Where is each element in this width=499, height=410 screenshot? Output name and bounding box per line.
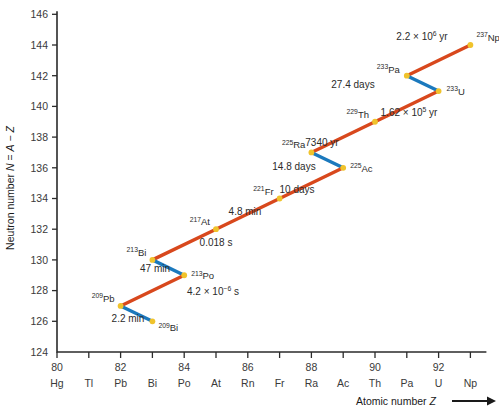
x-axis-title: Atomic number Z xyxy=(356,395,437,407)
element-symbol-pb: Pb xyxy=(114,377,127,389)
nuclide-element-symbol: Ac xyxy=(362,163,373,174)
y-axis-title-a: A xyxy=(4,145,16,153)
nuclide-mass-number: 213 xyxy=(191,270,203,277)
x-axis-tick-label: 86 xyxy=(242,361,254,373)
x-axis-tick-label: 92 xyxy=(433,361,445,373)
half-life-label-at217-bi213: 0.018 s xyxy=(200,237,233,248)
nuclide-node-ac225 xyxy=(340,165,346,171)
nuclide-element-symbol: Np xyxy=(488,32,499,43)
nuclide-label-po213: 213Po xyxy=(191,270,214,282)
y-axis-tick-label: 128 xyxy=(30,284,48,296)
nuclide-mass-number: 213 xyxy=(127,246,139,253)
nuclide-mass-number: 221 xyxy=(253,185,265,192)
y-axis-title: Neutron number N = A − Z xyxy=(4,126,16,250)
half-life-unit: s xyxy=(231,286,239,297)
nuclide-label-pa233: 233Pa xyxy=(377,63,401,75)
element-symbol-u: U xyxy=(435,377,443,389)
nuclide-node-np237 xyxy=(468,42,474,48)
half-life-label-ac225-fr221: 10 days xyxy=(279,184,314,195)
half-life-label-u233-th229: 1.62 × 105 yr xyxy=(381,106,439,118)
half-life-label-fr221-at217: 4.8 min xyxy=(229,206,262,217)
nuclide-node-th229 xyxy=(372,119,378,125)
nuclide-label-u233: 233U xyxy=(447,85,465,97)
nuclide-node-bi209 xyxy=(150,318,156,324)
nuclide-label-np237: 237Np xyxy=(476,31,499,43)
nuclide-label-pb209: 209Pb xyxy=(92,292,115,304)
half-life-mantissa: 2.2 min xyxy=(112,313,145,324)
nuclide-element-symbol: Po xyxy=(203,270,215,281)
nuclide-mass-number: 237 xyxy=(476,31,488,38)
nuclide-label-group: 209Bi209Pb213Po213Bi217At221Fr225Ac225Ra… xyxy=(92,31,499,333)
nuclide-label-at217: 217At xyxy=(190,216,211,228)
half-life-mantissa: 7340 yr xyxy=(305,137,339,148)
y-axis-tick-label: 146 xyxy=(30,8,48,20)
y-axis-title-prefix: Neutron number xyxy=(4,171,16,250)
x-axis-arrow-head xyxy=(487,397,496,406)
nuclide-element-symbol: Th xyxy=(358,109,369,120)
nuclide-node-u233 xyxy=(436,88,442,94)
y-axis-tick-label: 132 xyxy=(30,223,48,235)
half-life-mantissa: 4.2 × 10 xyxy=(187,286,224,297)
half-life-mantissa: 4.8 min xyxy=(229,206,262,217)
nuclide-element-symbol: Bi xyxy=(170,322,178,333)
y-tick-group: 124126128130132134136138140142144146 xyxy=(30,8,57,358)
y-axis-tick-label: 142 xyxy=(30,70,48,82)
nuclide-label-bi213: 213Bi xyxy=(127,246,147,258)
element-symbol-bi: Bi xyxy=(148,377,157,389)
x-axis-tick-label: 90 xyxy=(369,361,381,373)
y-axis-tick-label: 136 xyxy=(30,162,48,174)
element-symbol-ra: Ra xyxy=(305,377,319,389)
nuclide-element-symbol: Pa xyxy=(388,64,400,75)
half-life-mantissa: 2.2 × 10 xyxy=(396,31,433,42)
nuclide-label-fr221: 221Fr xyxy=(253,185,273,197)
y-axis-tick-label: 124 xyxy=(30,346,48,358)
x-axis-tick-label: 84 xyxy=(178,361,190,373)
element-symbol-ac: Ac xyxy=(337,377,349,389)
nuclide-node-ra225 xyxy=(309,150,315,156)
half-life-label-pb209-bi209: 2.2 min xyxy=(112,313,145,324)
nuclide-mass-number: 217 xyxy=(190,216,202,223)
y-axis-tick-label: 130 xyxy=(30,254,48,266)
nuclide-mass-number: 233 xyxy=(447,85,459,92)
nuclide-node-pa233 xyxy=(404,73,410,79)
element-symbol-hg: Hg xyxy=(50,377,64,389)
element-symbol-group: HgTlPbBiPoAtRnFrRaAcThPaUNp xyxy=(50,377,477,389)
nuclide-element-symbol: Fr xyxy=(265,186,274,197)
nuclide-mass-number: 225 xyxy=(350,162,362,169)
nuclide-node-fr221 xyxy=(277,196,283,202)
nuclide-label-ac225: 225Ac xyxy=(350,162,373,174)
half-life-label-bi213-po213: 47 min xyxy=(140,263,170,274)
y-axis-tick-label: 126 xyxy=(30,315,48,327)
half-life-label-po213-pb209: 4.2 × 10−6 s xyxy=(187,285,239,297)
half-life-mantissa: 0.018 s xyxy=(200,237,233,248)
nuclide-element-symbol: Pb xyxy=(103,293,115,304)
element-symbol-fr: Fr xyxy=(275,377,285,389)
nuclide-mass-number: 209 xyxy=(92,292,104,299)
x-tick-group: 80828486889092 xyxy=(51,352,470,373)
y-axis-title-minus: − xyxy=(4,133,16,145)
nuclide-element-symbol: Ra xyxy=(293,139,306,150)
element-symbol-tl: Tl xyxy=(84,377,93,389)
half-life-mantissa: 14.8 days xyxy=(272,161,315,172)
nuclide-mass-number: 233 xyxy=(377,63,389,70)
half-life-mantissa: 27.4 days xyxy=(331,79,374,90)
decay-segment-alpha xyxy=(121,275,185,306)
decay-chain-chart: 124126128130132134136138140142144146 808… xyxy=(0,0,499,410)
nuclide-node-pb209 xyxy=(118,303,124,309)
element-symbol-th: Th xyxy=(369,377,381,389)
half-life-mantissa: 1.62 × 10 xyxy=(381,107,423,118)
half-life-unit: yr xyxy=(437,31,449,42)
x-axis-tick-label: 80 xyxy=(51,361,63,373)
decay-segment-beta xyxy=(407,76,439,91)
nuclide-mass-number: 225 xyxy=(282,139,294,146)
nuclide-label-bi209: 209Bi xyxy=(158,322,178,334)
y-axis-tick-label: 140 xyxy=(30,100,48,112)
y-axis-tick-label: 134 xyxy=(30,192,48,204)
x-axis-title-symbol: Z xyxy=(429,395,437,407)
y-axis-tick-label: 144 xyxy=(30,39,48,51)
axes-group xyxy=(57,11,486,352)
element-symbol-rn: Rn xyxy=(241,377,255,389)
nuclide-node-bi213 xyxy=(150,257,156,263)
y-axis-title-equals: = xyxy=(4,152,16,164)
element-symbol-np: Np xyxy=(464,377,478,389)
